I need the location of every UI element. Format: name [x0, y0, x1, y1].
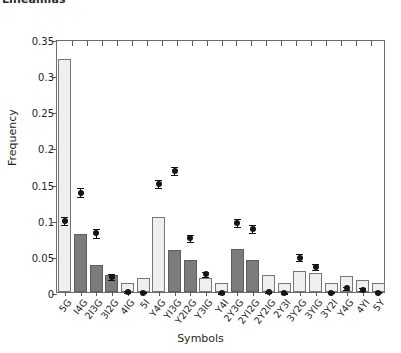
top-frame-tick — [72, 41, 73, 46]
top-frame-tick — [311, 41, 312, 46]
top-frame-tick — [192, 41, 193, 46]
top-frame-tick — [281, 41, 282, 46]
x-axis-tick-label-text: 5G — [57, 297, 74, 314]
top-frame-tick — [371, 41, 372, 46]
y-axis-tick-label: 0.35 — [32, 36, 54, 47]
top-frame-tick — [326, 41, 327, 46]
top-frame-tick — [132, 41, 133, 46]
y-axis-tick-label: 0 — [48, 289, 54, 300]
bar — [74, 234, 87, 292]
top-frame-tick — [207, 41, 208, 46]
bar — [58, 59, 71, 292]
y-axis-tick-label: 0.05 — [32, 252, 54, 263]
top-frame-tick — [222, 41, 223, 46]
top-frame-tick — [147, 41, 148, 46]
bar-series-container — [57, 41, 384, 292]
y-axis-label: Frequency — [6, 109, 19, 166]
top-frame-tick — [162, 41, 163, 46]
top-frame-tick — [236, 41, 237, 46]
top-frame-tick — [296, 41, 297, 46]
bar — [152, 217, 165, 292]
top-frame-tick — [341, 41, 342, 46]
top-frame-tick — [177, 41, 178, 46]
top-frame-tick — [117, 41, 118, 46]
top-frame-tick — [251, 41, 252, 46]
y-axis-tick-label: 0.15 — [32, 180, 54, 191]
y-axis-tick-label: 0.25 — [32, 108, 54, 119]
top-frame-tick — [102, 41, 103, 46]
top-frame-tick — [87, 41, 88, 46]
top-frame-tick — [266, 41, 267, 46]
y-axis-tick-label: 0.2 — [38, 144, 54, 155]
bar — [231, 249, 244, 292]
x-axis-label: Symbols — [0, 332, 401, 345]
plot-area: 00.050.10.150.20.250.30.355GI4G2I3G3I2G4… — [56, 40, 385, 293]
frequency-bar-chart: Frequency 00.050.10.150.20.250.30.355GI4… — [0, 0, 401, 353]
y-axis-tick-label: 0.1 — [38, 216, 54, 227]
top-frame-tick — [356, 41, 357, 46]
y-axis-tick-label: 0.3 — [38, 72, 54, 83]
